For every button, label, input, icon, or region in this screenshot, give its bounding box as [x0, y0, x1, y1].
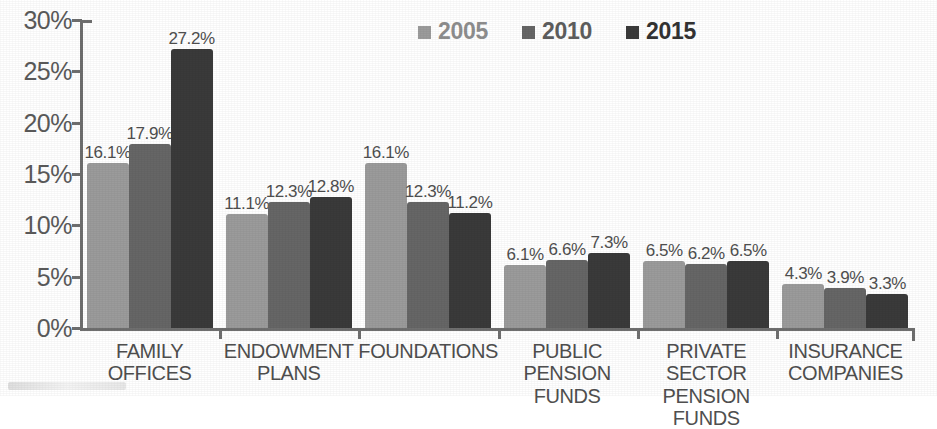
category-label-line: PLANS: [219, 362, 358, 384]
x-axis-category-label: INSURANCECOMPANIES: [776, 340, 915, 385]
category-label-line: FOUNDATIONS: [358, 340, 497, 362]
bar-value-label: 4.3%: [785, 265, 822, 282]
bar-group: 16.1%17.9%27.2%: [87, 20, 213, 328]
legend-label-2010: 2010: [542, 20, 592, 43]
bar-value-label: 7.3%: [591, 234, 628, 251]
bar[interactable]: 6.1%: [504, 265, 546, 328]
bar[interactable]: 6.2%: [685, 264, 727, 328]
legend-swatch-2010: [522, 26, 535, 39]
bar[interactable]: 12.3%: [268, 202, 310, 328]
bar-value-label: 16.1%: [84, 144, 130, 161]
x-axis-tick: [776, 328, 779, 339]
y-axis-tick-label: 10%: [6, 213, 72, 238]
bar[interactable]: 3.9%: [824, 288, 866, 328]
y-axis-tick-label: 0%: [6, 316, 72, 341]
y-axis-tick-label: 30%: [6, 8, 72, 33]
bar[interactable]: 7.3%: [588, 253, 630, 328]
bar-value-label: 6.5%: [730, 242, 767, 259]
bar[interactable]: 3.3%: [866, 294, 908, 328]
x-axis-tick: [219, 328, 222, 339]
legend-label-2015: 2015: [646, 20, 696, 43]
x-axis-category-label: PRIVATE SECTORPENSION FUNDS: [637, 340, 776, 429]
x-axis-category-label: ENDOWMENTPLANS: [219, 340, 358, 385]
bar-group: 6.5%6.2%6.5%: [643, 20, 769, 328]
bar[interactable]: 4.3%: [782, 284, 824, 328]
legend-label-2005: 2005: [438, 20, 488, 43]
category-label-line: PUBLIC PENSION: [498, 340, 637, 385]
bar-value-label: 3.3%: [869, 275, 906, 292]
legend-item-2005[interactable]: 2005: [418, 20, 488, 43]
y-axis-tick-label: 25%: [6, 59, 72, 84]
x-axis-tick: [637, 328, 640, 339]
category-label-line: PRIVATE SECTOR: [637, 340, 776, 385]
bar-group: 6.1%6.6%7.3%: [504, 20, 630, 328]
bar[interactable]: 11.2%: [449, 213, 491, 328]
bar[interactable]: 17.9%: [129, 144, 171, 328]
bar-value-label: 6.1%: [507, 246, 544, 263]
bar-value-label: 11.2%: [447, 194, 492, 211]
category-label-line: ENDOWMENT: [219, 340, 358, 362]
x-axis-category-label: FAMILYOFFICES: [80, 340, 219, 385]
plot-area: 16.1%17.9%27.2%11.1%12.3%12.8%16.1%12.3%…: [80, 20, 915, 328]
bar-group: 16.1%12.3%11.2%: [365, 20, 491, 328]
y-axis-labels: 0%5%10%15%20%25%30%: [0, 0, 72, 396]
bar-value-label: 27.2%: [168, 30, 214, 47]
category-label-line: INSURANCE: [776, 340, 915, 362]
x-axis-tick: [498, 328, 501, 339]
category-label-line: FUNDS: [498, 385, 637, 407]
x-axis-category-label: FOUNDATIONS: [358, 340, 497, 362]
category-label-line: PENSION FUNDS: [637, 385, 776, 429]
x-axis-category-label: PUBLIC PENSIONFUNDS: [498, 340, 637, 407]
bar[interactable]: 6.5%: [727, 261, 769, 328]
bar[interactable]: 16.1%: [365, 163, 407, 328]
y-axis-tick-label: 20%: [6, 110, 72, 135]
bar-value-label: 12.3%: [266, 183, 312, 200]
bar[interactable]: 12.8%: [310, 197, 352, 328]
bar-group: 11.1%12.3%12.8%: [226, 20, 352, 328]
bar[interactable]: 27.2%: [171, 49, 213, 328]
bar[interactable]: 16.1%: [87, 163, 129, 328]
bar[interactable]: 6.6%: [546, 260, 588, 328]
bar-value-label: 12.3%: [405, 183, 451, 200]
x-axis-tick: [358, 328, 361, 339]
category-label-line: FAMILY: [80, 340, 219, 362]
legend-item-2010[interactable]: 2010: [522, 20, 592, 43]
bar[interactable]: 12.3%: [407, 202, 449, 328]
chart-legend: 2005 2010 2015: [418, 20, 696, 43]
bar-value-label: 11.1%: [224, 195, 269, 212]
bar-value-label: 12.8%: [308, 178, 354, 195]
bar-value-label: 3.9%: [827, 269, 864, 286]
legend-swatch-2015: [626, 26, 639, 39]
legend-swatch-2005: [418, 26, 431, 39]
bar-value-label: 6.5%: [646, 242, 683, 259]
bar[interactable]: 6.5%: [643, 261, 685, 328]
bar-group: 4.3%3.9%3.3%: [782, 20, 908, 328]
page-edge-artifact: [8, 382, 126, 390]
category-label-line: COMPANIES: [776, 362, 915, 384]
bar-value-label: 6.6%: [549, 241, 586, 258]
bar[interactable]: 11.1%: [226, 214, 268, 328]
legend-item-2015[interactable]: 2015: [626, 20, 696, 43]
y-axis-tick-label: 5%: [6, 264, 72, 289]
bar-value-label: 17.9%: [126, 125, 172, 142]
bar-value-label: 16.1%: [363, 144, 409, 161]
y-axis-tick-label: 15%: [6, 162, 72, 187]
bar-value-label: 6.2%: [688, 245, 725, 262]
